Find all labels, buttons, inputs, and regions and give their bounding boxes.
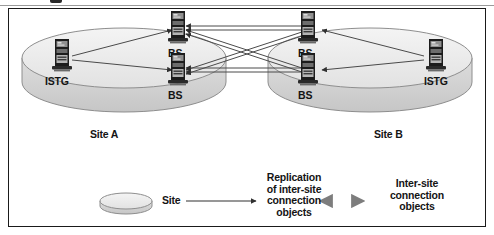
server-icon-bs-a2: [166, 52, 190, 92]
server-icon-bs-b1: [296, 10, 320, 50]
server-label-istg-a: ISTG: [45, 75, 69, 87]
legend-label-site: Site: [162, 195, 180, 207]
legend-replication-line-4: objects: [258, 207, 330, 219]
legend-label-connection: Inter-site connection objects: [382, 178, 452, 213]
server-icon-istg-a: [50, 38, 74, 78]
server-icon-bs-a1: [166, 10, 190, 50]
legend-label-replication: Replication of inter-site connection obj…: [258, 172, 330, 218]
legend-replication-line-3: connection: [258, 195, 330, 207]
legend-replication-line-1: Replication: [258, 172, 330, 184]
server-label-istg-b: ISTG: [424, 75, 448, 87]
server-label-bs-b2: BS: [298, 89, 312, 101]
site-label-b: Site B: [374, 128, 403, 140]
figure-root: ISTG BS BS: [0, 0, 494, 235]
legend-connection-line-3: objects: [382, 201, 452, 213]
server-icon-istg-b: [424, 38, 448, 78]
server-label-bs-a2: BS: [168, 89, 182, 101]
legend-connection-line-1: Inter-site: [382, 178, 452, 190]
site-label-a: Site A: [90, 128, 118, 140]
legend-site-ellipse: [100, 193, 152, 214]
server-icon-bs-b2: [296, 52, 320, 92]
